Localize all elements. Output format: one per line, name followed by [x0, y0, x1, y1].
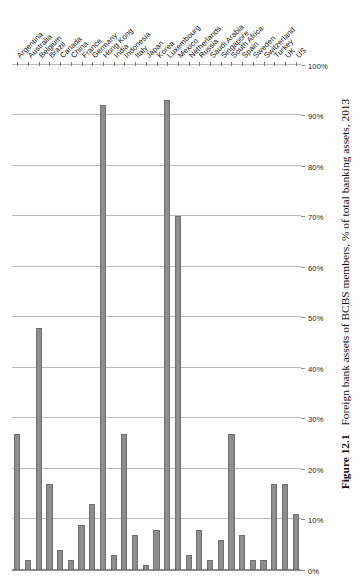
- bar-uk: [282, 484, 288, 570]
- bar-series: [12, 66, 301, 570]
- bar-indonesia: [121, 434, 127, 570]
- bar-france: [78, 525, 84, 570]
- bar-belgium: [36, 328, 42, 570]
- bar-hong-kong: [100, 105, 106, 570]
- value-tick-label: 0%: [308, 567, 319, 576]
- bar-row: [89, 65, 95, 570]
- category-tick: [178, 63, 179, 67]
- bar-row: [132, 65, 138, 570]
- bar-germany: [89, 504, 95, 570]
- value-tick: [301, 318, 305, 319]
- value-tick: [301, 520, 305, 521]
- value-tick: [301, 267, 305, 268]
- bar-japan: [143, 565, 149, 570]
- value-tick: [301, 469, 305, 470]
- bar-russia: [196, 530, 202, 570]
- value-tick-label: 70%: [308, 213, 324, 222]
- category-tick: [135, 63, 136, 67]
- bar-saudi-arabia: [207, 560, 213, 570]
- bar-row: [207, 65, 213, 570]
- bar-korea: [153, 530, 159, 570]
- value-tick-label: 100%: [308, 62, 328, 71]
- bar-brazil: [46, 484, 52, 570]
- category-tick: [167, 63, 168, 67]
- bar-row: [36, 65, 42, 570]
- bar-australia: [25, 560, 31, 570]
- category-tick: [274, 63, 275, 67]
- category-tick: [199, 63, 200, 67]
- bar-row: [250, 65, 256, 570]
- bar-south-africa: [228, 434, 234, 570]
- bar-row: [68, 65, 74, 570]
- bar-row: [78, 65, 84, 570]
- category-tick: [285, 63, 286, 67]
- figure-caption: Figure 12.1 Foreign bank assets of BCBS …: [328, 0, 362, 587]
- bar-row: [153, 65, 159, 570]
- bar-mexico: [175, 217, 181, 571]
- category-tick: [146, 63, 147, 67]
- value-tick: [301, 65, 305, 66]
- bar-row: [271, 65, 277, 570]
- bar-row: [218, 65, 224, 570]
- category-tick: [114, 63, 115, 67]
- value-tick-label: 10%: [308, 516, 324, 525]
- category-tick: [82, 63, 83, 67]
- category-tick: [157, 63, 158, 67]
- value-tick: [301, 570, 305, 571]
- bar-row: [282, 65, 288, 570]
- value-tick: [301, 368, 305, 369]
- bar-us: [293, 514, 299, 570]
- bar-canada: [57, 550, 63, 570]
- bar-row: [239, 65, 245, 570]
- value-tick-label: 80%: [308, 163, 324, 172]
- category-tick: [60, 63, 61, 67]
- value-tick-label: 30%: [308, 415, 324, 424]
- value-tick-label: 20%: [308, 466, 324, 475]
- figure-caption-text: Foreign bank assets of BCBS members, % o…: [339, 98, 351, 425]
- value-tick-label: 40%: [308, 365, 324, 374]
- bar-india: [111, 555, 117, 570]
- value-tick: [301, 217, 305, 218]
- bar-chart: 0%10%20%30%40%50%60%70%80%90%100% Argent…: [12, 66, 301, 571]
- bar-row: [260, 65, 266, 570]
- bar-row: [46, 65, 52, 570]
- bar-luxembourg: [164, 100, 170, 570]
- category-tick: [49, 63, 50, 67]
- category-tick: [253, 63, 254, 67]
- bar-row: [143, 65, 149, 570]
- figure-number: Figure 12.1: [339, 434, 351, 489]
- category-tick: [39, 63, 40, 67]
- bar-sweden: [250, 560, 256, 570]
- value-tick: [301, 419, 305, 420]
- bar-spain: [239, 535, 245, 570]
- value-tick-label: 90%: [308, 112, 324, 121]
- category-tick: [296, 63, 297, 67]
- category-tick: [28, 63, 29, 67]
- figure-page: 0%10%20%30%40%50%60%70%80%90%100% Argent…: [0, 0, 364, 587]
- bar-row: [57, 65, 63, 570]
- category-tick: [124, 63, 125, 67]
- bar-row: [164, 65, 170, 570]
- category-tick: [264, 63, 265, 67]
- bar-row: [111, 65, 117, 570]
- category-tick: [231, 63, 232, 67]
- chart-stage: 0%10%20%30%40%50%60%70%80%90%100% Argent…: [0, 0, 364, 587]
- bar-row: [175, 65, 181, 570]
- bar-argentina: [14, 434, 20, 570]
- category-label-us: US: [294, 46, 308, 60]
- category-tick: [103, 63, 104, 67]
- bar-turkey: [271, 484, 277, 570]
- bar-netherlands: [186, 555, 192, 570]
- category-tick: [92, 63, 93, 67]
- category-tick: [221, 63, 222, 67]
- category-tick: [71, 63, 72, 67]
- plot-area: [12, 66, 301, 571]
- value-tick-label: 60%: [308, 264, 324, 273]
- bar-italy: [132, 535, 138, 570]
- category-tick: [17, 63, 18, 67]
- category-tick: [210, 63, 211, 67]
- value-tick-label: 50%: [308, 314, 324, 323]
- bar-row: [228, 65, 234, 570]
- category-tick: [242, 63, 243, 67]
- value-tick: [301, 116, 305, 117]
